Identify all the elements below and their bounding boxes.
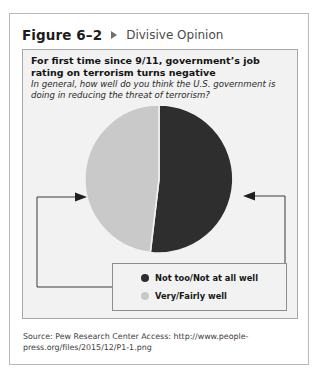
chart-legend: Not too/Not at all well Very/Fairly well [112,263,287,311]
figure-screenshot: Figure 6–2 Divisive Opinion For first ti… [0,0,327,378]
arrowhead-not-too-not-at-all-well [243,192,255,201]
source-note: Source: Pew Research Center Access: http… [23,331,297,353]
figure-number: Figure 6–2 [22,27,102,43]
legend-label-very-fairly-well: Very/Fairly well [155,291,227,301]
right-triangle-icon [111,31,117,39]
pie-chart [83,103,235,255]
legend-swatch-dark-icon [141,274,149,282]
chart-panel: For first time since 9/11, government’s … [22,49,298,319]
legend-item-very-fairly-well: Very/Fairly well [141,291,227,301]
pie-slice-not-too-not-at-all-well [150,105,233,253]
chart-subtitle: In general, how well do you think the U.… [31,79,293,100]
pie-chart-svg [83,103,235,255]
pie-slice-very-fairly-well [85,105,159,253]
figure-header: Figure 6–2 Divisive Opinion [22,22,298,48]
legend-label-not-too-not-at-all-well: Not too/Not at all well [155,273,258,283]
legend-swatch-light-icon [141,292,149,300]
legend-item-not-too-not-at-all-well: Not too/Not at all well [141,273,258,283]
figure-frame: Figure 6–2 Divisive Opinion For first ti… [9,13,309,365]
chart-title: For first time since 9/11, government’s … [31,55,289,78]
figure-caption: Divisive Opinion [126,28,223,42]
